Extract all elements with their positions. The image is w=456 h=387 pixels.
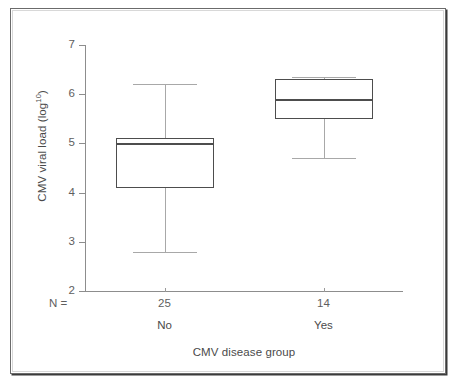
y-axis-tick-label: 6 — [55, 88, 75, 100]
y-axis-tick-mark — [79, 45, 85, 46]
median-line — [275, 99, 373, 101]
y-axis-tick-label: 2 — [55, 285, 75, 297]
group-n-value: 25 — [135, 297, 195, 309]
upper-whisker-cap — [292, 77, 356, 78]
x-axis-category-label: No — [125, 319, 205, 331]
lower-whisker-line — [324, 119, 325, 158]
lower-whisker-line — [165, 188, 166, 252]
y-axis-title-close: ) — [36, 90, 48, 94]
y-axis-tick-mark — [79, 242, 85, 243]
median-line — [116, 143, 214, 145]
y-axis-tick-mark — [79, 193, 85, 194]
y-axis-tick-mark — [79, 291, 85, 292]
lower-whisker-cap — [133, 252, 197, 253]
box-plot-chart: 234567 CMV viral load (log10) CMV diseas… — [11, 9, 447, 375]
y-axis-line — [85, 45, 86, 291]
x-axis-line — [85, 291, 403, 292]
x-axis-tick-mark — [165, 288, 166, 292]
group-n-value: 14 — [294, 297, 354, 309]
x-axis-tick-mark — [324, 288, 325, 292]
figure-frame: 234567 CMV viral load (log10) CMV diseas… — [10, 8, 446, 374]
y-axis-tick-label: 7 — [55, 39, 75, 51]
x-axis-category-label: Yes — [284, 319, 364, 331]
upper-whisker-line — [165, 84, 166, 138]
y-axis-title-main: CMV viral load (log — [36, 103, 48, 202]
y-axis-tick-label: 3 — [55, 236, 75, 248]
n-row-label: N = — [49, 297, 67, 309]
iqr-box — [116, 138, 214, 187]
upper-whisker-cap — [133, 84, 197, 85]
y-axis-tick-label: 5 — [55, 137, 75, 149]
y-axis-title: CMV viral load (log10) — [34, 46, 48, 246]
y-axis-title-exponent: 10 — [34, 94, 43, 103]
x-axis-title: CMV disease group — [85, 346, 403, 358]
y-axis-tick-mark — [79, 94, 85, 95]
y-axis-tick-label: 4 — [55, 187, 75, 199]
lower-whisker-cap — [292, 158, 356, 159]
y-axis-tick-mark — [79, 143, 85, 144]
